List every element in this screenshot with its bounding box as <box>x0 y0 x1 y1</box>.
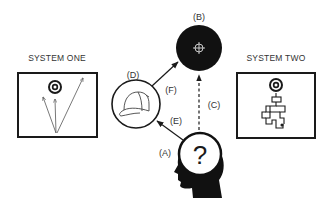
edge-f-label: (F) <box>165 85 177 95</box>
system-two-panel: SYSTEM TWO <box>237 53 315 138</box>
node-d-label: (D) <box>127 70 140 80</box>
edge-e-label: (E) <box>170 116 182 126</box>
node-a-label: (A) <box>159 148 171 158</box>
edge-c-label: (C) <box>208 100 221 110</box>
node-a: (A) ? <box>159 133 224 198</box>
target-icon <box>48 80 62 94</box>
cap-circle <box>112 80 160 128</box>
node-d: (D) <box>112 70 160 128</box>
node-b-label: (B) <box>193 12 205 22</box>
node-b: (B) <box>176 12 222 71</box>
system-two-title: SYSTEM TWO <box>247 53 306 63</box>
edge-c: (C) <box>199 75 220 130</box>
edge-e: (E) <box>157 116 183 140</box>
target-icon <box>269 78 283 92</box>
question-mark-icon: ? <box>193 140 207 170</box>
system-one-title: SYSTEM ONE <box>28 53 86 63</box>
diagram-canvas: SYSTEM ONE SYSTEM TWO <box>0 0 334 204</box>
system-one-panel: SYSTEM ONE <box>18 53 97 137</box>
